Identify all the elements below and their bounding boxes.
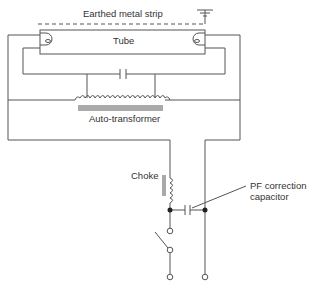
tube-left-end	[40, 33, 52, 45]
supply-terminal-right	[202, 274, 208, 280]
supply-terminal-left	[167, 274, 173, 280]
tube-right-end	[193, 33, 205, 45]
choke-label: Choke	[131, 171, 158, 182]
tube-label: Tube	[113, 36, 134, 47]
autotransformer-coil	[75, 96, 170, 101]
autotransformer-label: Auto-transformer	[89, 114, 160, 125]
earth-strip-label: Earthed metal strip	[83, 9, 163, 20]
choke-coil	[170, 178, 173, 203]
switch-terminal-bottom	[167, 247, 173, 253]
switch-terminal-top	[167, 228, 173, 234]
pf-leader	[192, 186, 246, 208]
switch-arm	[155, 232, 168, 248]
pf-label-line2: capacitor	[250, 192, 289, 203]
circuit-diagram	[0, 0, 310, 290]
